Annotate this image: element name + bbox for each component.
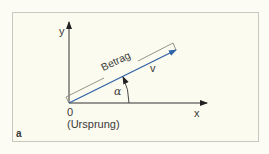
vector-label: v (150, 63, 156, 74)
origin-label: 0 (67, 107, 73, 118)
vector-diagram (0, 0, 269, 154)
origin-caption: (Ursprung) (67, 119, 120, 130)
angle-arc (123, 77, 129, 103)
y-axis-label: y (59, 26, 65, 37)
angle-label: α (114, 86, 121, 97)
x-axis-label: x (194, 108, 200, 119)
panel-label: a (16, 129, 22, 139)
